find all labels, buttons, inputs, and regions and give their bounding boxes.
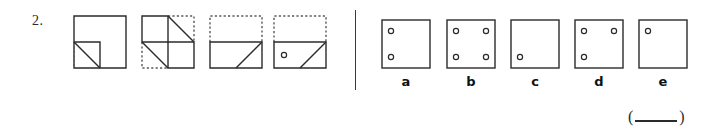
punch-hole-icon xyxy=(517,54,522,59)
answer-slot[interactable]: () xyxy=(628,108,685,126)
option-a[interactable]: a xyxy=(380,18,432,88)
option-d-label: d xyxy=(573,75,625,88)
figure-4-dotted-upper-half xyxy=(274,16,326,42)
option-c-label: c xyxy=(509,75,561,88)
punch-hole-icon xyxy=(581,54,586,59)
figure-3-outline xyxy=(210,42,262,68)
option-e-label: e xyxy=(637,75,689,88)
punch-hole-icon xyxy=(581,28,586,33)
question-number: 2. xyxy=(32,14,44,28)
punch-hole-icon xyxy=(611,28,616,33)
option-e[interactable]: e xyxy=(637,18,689,88)
punch-hole-icon xyxy=(388,28,393,33)
option-a-square xyxy=(382,20,430,68)
option-d-square xyxy=(575,20,623,68)
option-b-label: b xyxy=(445,75,497,88)
option-d[interactable]: d xyxy=(573,18,625,88)
option-c[interactable]: c xyxy=(509,18,561,88)
punch-hole-icon xyxy=(453,54,458,59)
sequence-figure-2 xyxy=(140,14,196,72)
option-b-square xyxy=(447,20,495,68)
section-divider xyxy=(355,10,356,90)
punch-hole-icon xyxy=(453,28,458,33)
answer-open-paren: ( xyxy=(628,108,633,125)
punch-hole-icon xyxy=(388,54,393,59)
sequence-figure-4 xyxy=(272,14,328,72)
figure-2-upper-left-quadrant xyxy=(142,16,168,42)
sequence-figure-3 xyxy=(208,14,264,72)
worksheet-page: 2. xyxy=(0,0,704,136)
option-c-square xyxy=(511,20,559,68)
answer-blank-line[interactable] xyxy=(635,110,677,122)
figure-2-fold-diagonal-upper xyxy=(168,16,194,42)
option-a-label: a xyxy=(380,75,432,88)
option-e-square xyxy=(639,20,687,68)
answer-close-paren: ) xyxy=(679,108,684,125)
figure-3-fold-diagonal xyxy=(236,42,262,68)
punch-hole-icon xyxy=(645,28,650,33)
punch-hole-icon xyxy=(483,54,488,59)
figure-3-dotted-upper-half xyxy=(210,16,262,42)
option-b[interactable]: b xyxy=(445,18,497,88)
figure-2-fold-diagonal-lower xyxy=(142,42,168,68)
figure-4-fold-diagonal xyxy=(300,42,326,68)
punch-hole-icon xyxy=(281,52,286,57)
figure-2-lower-right-quadrant xyxy=(168,42,194,68)
punch-hole-icon xyxy=(483,28,488,33)
sequence-figure-1 xyxy=(72,14,128,72)
figure-1-fold-diagonal xyxy=(74,42,100,68)
